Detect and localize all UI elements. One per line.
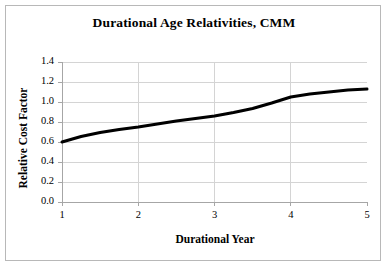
chart-figure: Durational Age Relativities, CMM Relativ…	[0, 0, 388, 268]
y-tick-label: 0.0	[20, 195, 54, 206]
x-tick-label: 5	[355, 209, 379, 220]
y-tick-label: 0.4	[20, 155, 54, 166]
plot-area	[0, 0, 388, 268]
tick-marks	[58, 62, 367, 206]
y-tick-label: 0.6	[20, 135, 54, 146]
y-tick-label: 1.4	[20, 55, 54, 66]
y-tick-label: 1.2	[20, 75, 54, 86]
y-tick-label: 0.8	[20, 115, 54, 126]
x-tick-label: 1	[50, 209, 74, 220]
x-tick-label: 2	[126, 209, 150, 220]
y-tick-label: 1.0	[20, 95, 54, 106]
y-tick-label: 0.2	[20, 175, 54, 186]
x-tick-label: 4	[279, 209, 303, 220]
x-tick-label: 3	[203, 209, 227, 220]
